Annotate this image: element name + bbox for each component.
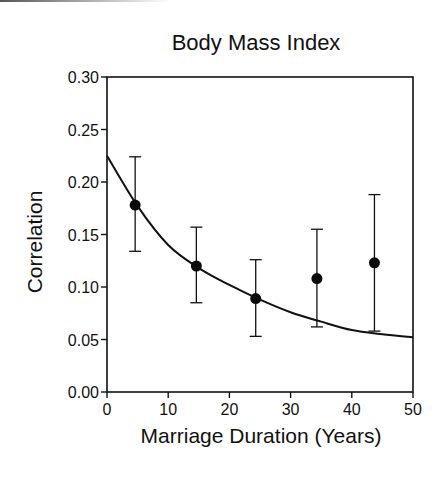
plot-border (107, 77, 413, 392)
point-marker (311, 273, 322, 284)
x-tick-label: 50 (404, 401, 422, 418)
point-marker (130, 200, 141, 211)
y-tick-label: 0.20 (68, 174, 99, 191)
y-tick-label: 0.30 (68, 69, 99, 86)
y-tick-label: 0.10 (68, 279, 99, 296)
point-marker (250, 293, 261, 304)
fitted-curve-line (107, 156, 413, 338)
y-axis-ticks: 0.000.050.100.150.200.250.30 (68, 69, 107, 401)
data-point (311, 229, 323, 327)
x-axis-ticks: 01020304050 (103, 392, 422, 418)
data-point (129, 157, 141, 252)
y-tick-label: 0.25 (68, 122, 99, 139)
x-tick-label: 30 (282, 401, 300, 418)
data-point (190, 227, 202, 303)
point-marker (191, 261, 202, 272)
y-tick-label: 0.00 (68, 384, 99, 401)
x-tick-label: 20 (221, 401, 239, 418)
y-tick-label: 0.15 (68, 227, 99, 244)
data-point (250, 260, 262, 337)
y-tick-label: 0.05 (68, 332, 99, 349)
fitted-curve (107, 156, 413, 338)
data-points (129, 157, 380, 337)
plot-frame (107, 77, 413, 392)
point-marker (369, 257, 380, 268)
x-tick-label: 40 (343, 401, 361, 418)
x-tick-label: 10 (159, 401, 177, 418)
x-tick-label: 0 (103, 401, 112, 418)
plot-area: 0.000.050.100.150.200.250.30 01020304050 (0, 0, 444, 481)
data-point (368, 195, 380, 332)
